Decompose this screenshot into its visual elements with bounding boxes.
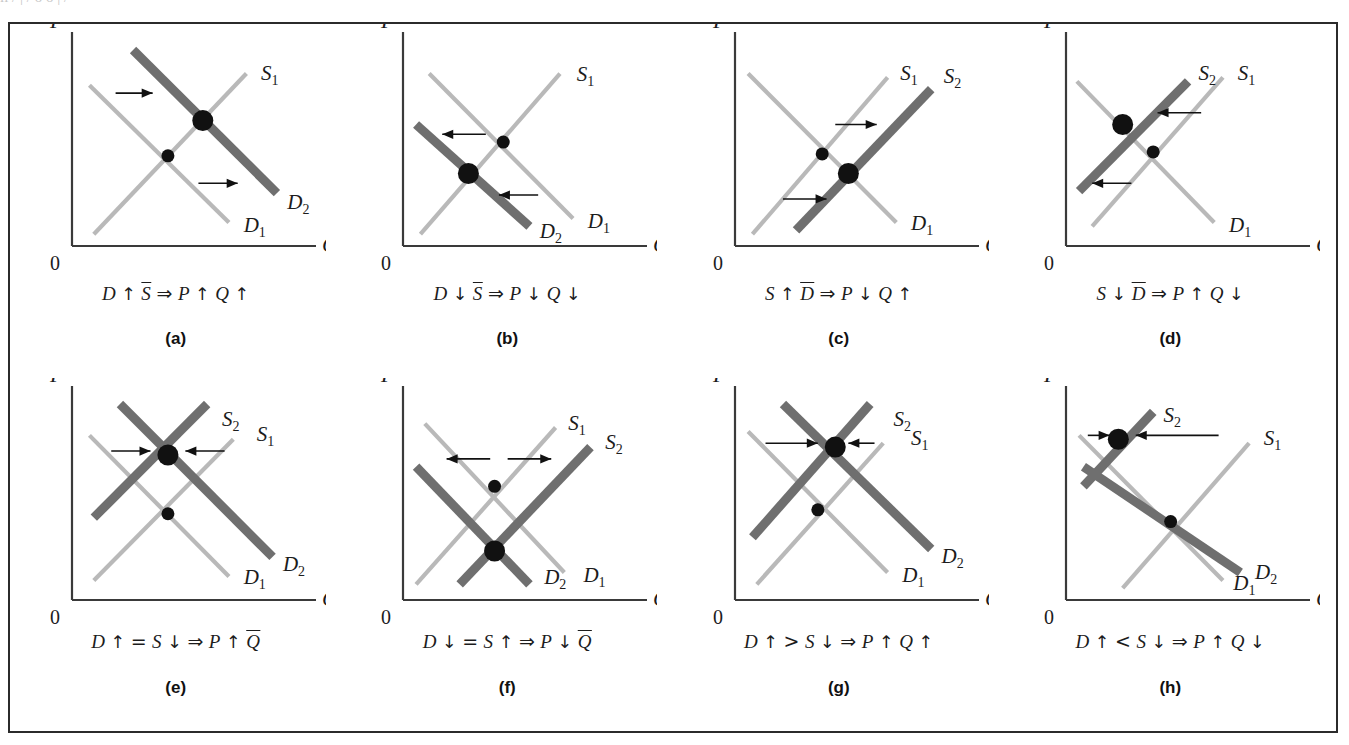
caption-token: ↑ <box>499 632 514 652</box>
shift-arrow-right <box>111 446 150 455</box>
panel-f: PQ0D1S1D2S2D ↓ = S ↑ ⇒ P ↓ Q(f) <box>342 378 674 732</box>
panel-caption-a: D ↑ S ⇒ P ↑ Q ↑ <box>10 282 342 305</box>
equilibrium-dot-original <box>161 149 174 162</box>
caption-token: D <box>423 631 437 652</box>
panel-letter-a: (a) <box>10 329 342 349</box>
panel-caption-h: D ↑ < S ↓ ⇒ P ↑ Q ↓ <box>1005 630 1337 653</box>
chart-h: PQ0D1S1D2S2 <box>1020 378 1320 628</box>
caption-token: Q <box>899 631 913 652</box>
curve-label-s1: S1 <box>1264 426 1282 453</box>
equilibrium-dot-original <box>811 503 824 516</box>
equilibrium-dot-new <box>838 163 859 184</box>
svg-text:D2: D2 <box>1254 559 1277 586</box>
svg-text:S2: S2 <box>893 406 911 433</box>
curve-label-s2: S2 <box>605 430 623 457</box>
equilibrium-dot-original <box>161 507 174 520</box>
origin-label: 0 <box>1044 606 1054 628</box>
quantity-axis-label: Q <box>1316 232 1320 257</box>
caption-token: P <box>209 631 221 652</box>
caption-token: ⇒ <box>187 630 203 652</box>
equilibrium-dot-new <box>1108 428 1129 449</box>
equilibrium-dot-original <box>815 147 828 160</box>
origin-label: 0 <box>50 252 60 274</box>
caption-token: ↓ <box>527 284 542 304</box>
caption-token: Q <box>578 631 592 652</box>
caption-token: Q <box>215 283 229 304</box>
panel-a: PQ0D1S1D2D ↑ S ⇒ P ↑ Q ↑(a) <box>10 24 342 378</box>
quantity-axis-label: Q <box>985 232 989 257</box>
curve-label-d1: D1 <box>583 563 606 590</box>
caption-token: Q <box>878 283 892 304</box>
panel-c: PQ0D1S1S2S ↑ D ⇒ P ↓ Q ↑(c) <box>673 24 1005 378</box>
caption-token: ↓ <box>1111 284 1126 304</box>
caption-token: D <box>744 631 758 652</box>
panel-letter-d: (d) <box>1005 329 1337 349</box>
figure-frame: PQ0D1S1D2D ↑ S ⇒ P ↑ Q ↑(a)PQ0D1S1D2D ↓ … <box>8 22 1338 733</box>
svg-text:S1: S1 <box>568 410 586 437</box>
price-axis-label: P <box>712 378 726 387</box>
panel-letter-b: (b) <box>342 329 674 349</box>
svg-text:D1: D1 <box>901 563 924 590</box>
quantity-axis-label: Q <box>1316 586 1320 611</box>
curve-label-s1: S1 <box>911 426 929 453</box>
svg-text:D2: D2 <box>286 190 309 217</box>
svg-text:S2: S2 <box>943 64 961 91</box>
caption-token: ↑ <box>110 632 125 652</box>
curve-label-s2: S2 <box>893 406 911 433</box>
curve-label-d2: D2 <box>940 543 963 570</box>
caption-token: ⇒ <box>819 282 835 304</box>
caption-token: ↑ <box>1095 632 1110 652</box>
caption-token: ↑ <box>1210 632 1225 652</box>
quantity-axis-label: Q <box>653 586 657 611</box>
caption-token: ↓ <box>167 632 182 652</box>
curve-label-s2: S2 <box>1199 61 1217 88</box>
caption-token: ↑ <box>780 284 795 304</box>
caption-token: P <box>841 283 853 304</box>
curve-label-d1: D1 <box>242 213 265 240</box>
caption-token: D <box>800 283 814 304</box>
chart-g: PQ0D1S1D2S2 <box>689 378 989 628</box>
shift-arrow-right <box>198 179 237 188</box>
price-axis-label: P <box>712 24 726 33</box>
price-axis-label: P <box>1043 24 1057 33</box>
caption-token: = <box>131 630 147 652</box>
equilibrium-dot-original <box>497 136 510 149</box>
caption-token: > <box>784 630 800 652</box>
caption-token: ↑ <box>195 284 210 304</box>
caption-token: ⇒ <box>1172 630 1188 652</box>
equilibrium-dot-new <box>192 110 213 131</box>
caption-token: D <box>1132 283 1146 304</box>
caption-token: S <box>141 283 151 304</box>
svg-text:S2: S2 <box>605 430 623 457</box>
svg-text:S1: S1 <box>257 422 275 449</box>
curve-label-d2: D2 <box>286 190 309 217</box>
chart-b: PQ0D1S1D2 <box>357 24 657 274</box>
curve-label-s1: S1 <box>577 62 595 89</box>
caption-token: P <box>178 283 190 304</box>
caption-token: ↓ <box>1229 284 1244 304</box>
svg-text:D2: D2 <box>539 219 562 246</box>
caption-token: ↑ <box>763 632 778 652</box>
caption-token: S <box>1096 283 1106 304</box>
caption-token: ↑ <box>1190 284 1205 304</box>
figure-page: ll / | / o o | / PQ0D1S1D2D ↑ S ⇒ P ↑ Q … <box>0 0 1349 745</box>
caption-token: Q <box>1231 631 1245 652</box>
caption-token: S <box>152 631 162 652</box>
svg-text:S2: S2 <box>222 406 240 433</box>
curve-d1 <box>748 431 888 572</box>
equilibrium-dot-new <box>825 436 846 457</box>
curve-label-d2: D2 <box>539 219 562 246</box>
curve-label-d2: D2 <box>1254 559 1277 586</box>
curve-label-s1: S1 <box>1238 61 1256 88</box>
curve-label-d1: D1 <box>1233 571 1256 598</box>
svg-text:S1: S1 <box>911 426 929 453</box>
equilibrium-dot-new <box>157 444 178 465</box>
price-axis-label: P <box>380 24 394 33</box>
curve-label-s1: S1 <box>900 61 918 88</box>
caption-token: S <box>473 283 483 304</box>
panel-d: PQ0D1S1S2S ↓ D ⇒ P ↑ Q ↓(d) <box>1005 24 1337 378</box>
equilibrium-dot-new <box>1112 114 1133 135</box>
equilibrium-dot-original <box>1164 515 1177 528</box>
svg-text:D2: D2 <box>940 543 963 570</box>
panel-caption-g: D ↑ > S ↓ ⇒ P ↑ Q ↑ <box>673 630 1005 653</box>
